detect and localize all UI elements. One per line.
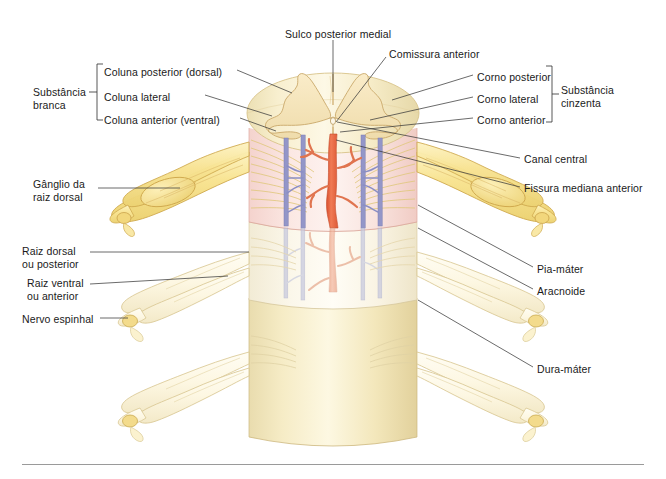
label-nervo-espinhal: Nervo espinhal xyxy=(22,313,94,326)
label-aracnoide: Aracnoide xyxy=(537,285,585,298)
spinal-cord-figure: Sulco posterior medial Comissura anterio… xyxy=(0,0,666,479)
label-raiz-ventral-ou-anterior: Raiz ventral ou anterior xyxy=(27,277,84,302)
footer-divider xyxy=(22,464,644,465)
label-canal-central: Canal central xyxy=(524,153,587,166)
spinal-nerve-middle-right xyxy=(417,252,548,342)
label-coluna-lateral: Coluna lateral xyxy=(104,91,170,104)
label-pia-mater: Pia-máter xyxy=(537,263,583,276)
label-raiz-dorsal-ou-posterior: Raiz dorsal ou posterior xyxy=(22,245,79,270)
spinal-nerve-lower-right xyxy=(417,352,548,442)
label-dura-mater: Dura-máter xyxy=(537,363,591,376)
label-substancia-cinzenta: Substância cinzenta xyxy=(561,84,614,109)
dura-mater-segment xyxy=(249,298,417,446)
label-substancia-branca: Substância branca xyxy=(33,86,86,111)
label-coluna-posterior-dorsal: Coluna posterior (dorsal) xyxy=(104,66,222,79)
label-ganglio-da-raiz-dorsal: Gânglio da raiz dorsal xyxy=(33,178,85,203)
label-corno-posterior: Corno posterior xyxy=(477,71,551,84)
label-sulco-posterior-medial: Sulco posterior medial xyxy=(285,28,391,41)
label-corno-lateral: Corno lateral xyxy=(477,93,538,106)
label-coluna-anterior-ventral: Coluna anterior (ventral) xyxy=(104,114,220,127)
spinal-nerve-middle-left xyxy=(118,252,249,342)
bracket-substancia-branca xyxy=(89,64,103,120)
label-comissura-anterior: Comissura anterior xyxy=(389,48,480,61)
label-corno-anterior: Corno anterior xyxy=(477,114,546,127)
spinal-nerve-upper-left xyxy=(110,142,249,237)
label-fissura-mediana-anterior: Fissura mediana anterior xyxy=(524,182,643,195)
spinal-cord-illustration xyxy=(0,0,666,479)
spinal-nerve-lower-left xyxy=(118,352,249,442)
